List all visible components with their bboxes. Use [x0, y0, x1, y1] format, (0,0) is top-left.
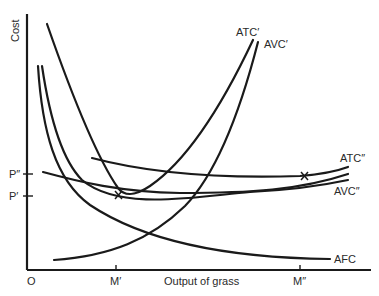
cost-curves-chart: Cost P″ P′ O M′ Output of grass M″ ATC′ …: [0, 0, 379, 296]
label-p-double: P″: [9, 168, 20, 180]
label-origin: O: [27, 275, 36, 287]
curve-atc-double-upper: [92, 158, 348, 177]
x-axis-label: Output of grass: [164, 275, 240, 287]
label-p-single: P′: [9, 190, 18, 202]
label-avc-double: AVC″: [334, 185, 360, 197]
curve-avc-single: [54, 42, 258, 260]
label-atc-single: ATC′: [236, 26, 259, 38]
label-atc-double: ATC″: [340, 152, 365, 164]
label-afc: AFC: [334, 253, 356, 265]
y-axis-label: Cost: [9, 19, 21, 42]
label-m-single: M′: [110, 275, 121, 287]
label-avc-single: AVC′: [264, 38, 288, 50]
curve-afc: [38, 66, 330, 259]
label-m-double: M″: [293, 275, 306, 287]
